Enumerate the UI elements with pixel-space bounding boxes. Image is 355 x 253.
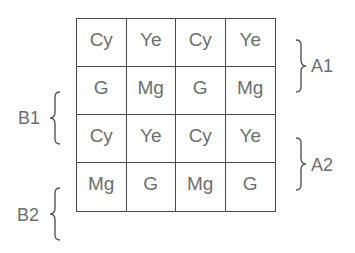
label-b2: B2	[17, 206, 39, 224]
grid-cell: Mg	[77, 163, 127, 211]
grid-cell: Ye	[127, 19, 177, 67]
grid-cell: Cy	[176, 19, 226, 67]
label-b1: B1	[18, 109, 40, 127]
left-brace-icon	[48, 187, 62, 241]
grid-cell: G	[77, 67, 127, 115]
label-a2: A2	[311, 156, 333, 174]
grid-cell: Mg	[127, 67, 177, 115]
grid-cell: G	[127, 163, 177, 211]
left-brace-icon	[48, 91, 62, 145]
grid-cell: G	[176, 67, 226, 115]
grid-cell: Mg	[176, 163, 226, 211]
grid-cell: G	[226, 163, 276, 211]
grid-cell: Cy	[176, 115, 226, 163]
grid-cell: Ye	[226, 19, 276, 67]
grid-cell: Cy	[77, 19, 127, 67]
label-a1: A1	[311, 57, 333, 75]
right-brace-icon	[294, 39, 308, 93]
grid-cell: Cy	[77, 115, 127, 163]
color-filter-grid: Cy Ye Cy Ye G Mg G Mg Cy Ye Cy Ye Mg G M…	[76, 18, 276, 212]
right-brace-icon	[294, 137, 308, 191]
grid-cell: Ye	[226, 115, 276, 163]
grid-cell: Ye	[127, 115, 177, 163]
grid-cell: Mg	[226, 67, 276, 115]
